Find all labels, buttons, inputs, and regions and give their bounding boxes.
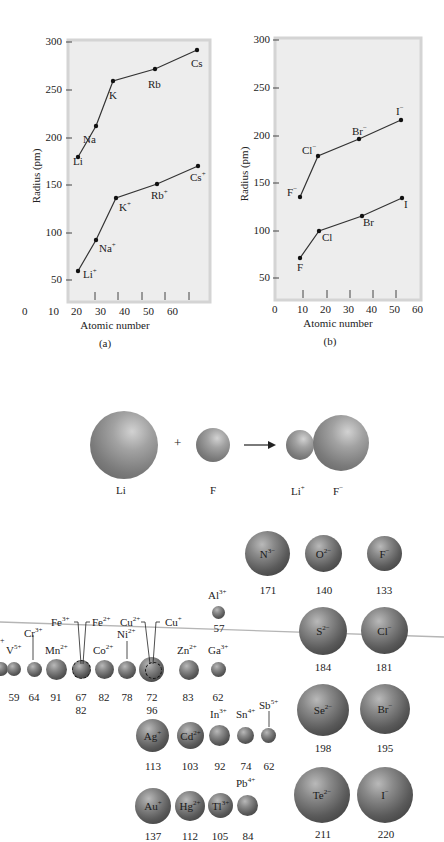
product1-label: Li+ — [291, 484, 305, 497]
x-tick: 0 — [22, 305, 28, 317]
ion-radius-alt: 82 — [66, 704, 96, 716]
ion-radius: 195 — [370, 742, 400, 754]
ion-sphere-pb — [237, 795, 258, 816]
y-tick: 150 — [46, 178, 63, 190]
ion-label-al3: Al3+ — [208, 588, 226, 601]
ion-label-ga3: Ga3+ — [208, 643, 228, 656]
plus-sign: + — [174, 435, 181, 451]
ion-sphere-ga3 — [211, 662, 226, 677]
point-label: F — [297, 261, 303, 273]
ion-sphere-ag: Ag+ — [136, 719, 169, 752]
ion-label-fe2: Fe2+ — [92, 615, 110, 628]
ion-sphere-o2: O2− — [305, 535, 342, 572]
x-tick: 50 — [143, 305, 154, 317]
point-label: Li — [73, 155, 83, 167]
ion-label-zn2: Zn2+ — [177, 643, 197, 656]
ion-sphere-hg: Hg2+ — [175, 791, 205, 821]
y-tick: 200 — [254, 129, 271, 141]
ion-radius: 137 — [138, 830, 168, 842]
point-label: Br− — [352, 124, 367, 137]
ion-radius: 84 — [233, 830, 263, 842]
ion-sphere-s2: S2− — [299, 607, 347, 655]
x-tick: 0 — [272, 303, 278, 315]
sb-connector — [268, 711, 270, 727]
li-cation-sphere — [286, 430, 314, 460]
y-tick: 250 — [46, 83, 63, 95]
point-label: I — [404, 198, 408, 210]
x-tick: 40 — [119, 305, 130, 317]
x-tick-labels-b: 0 10 20 30 40 50 60 — [222, 303, 444, 317]
x-tick: 60 — [412, 303, 423, 315]
ion-label-cr3: Cr3+ — [24, 626, 42, 639]
ion-sphere-in — [209, 725, 230, 746]
ion-label-mn2: Mn2+ — [45, 643, 68, 656]
ion-label-fe3: Fe3+ — [51, 615, 69, 628]
point-label: Cs — [191, 57, 203, 69]
point-label: K+ — [119, 200, 131, 213]
ion-radius: 133 — [369, 584, 399, 596]
x-tick: 20 — [320, 303, 331, 315]
point-label: Rb+ — [151, 188, 168, 201]
ion-label-sb5: Sb5+ — [259, 698, 278, 711]
ion-label-co2: Co2+ — [93, 643, 113, 656]
ion-sphere-cd: Cd2+ — [177, 722, 204, 749]
ion-label-sn4: Sn4+ — [236, 707, 255, 720]
ion-sphere-f: F− — [367, 536, 402, 571]
x-axis-label-b: Atomic number — [283, 317, 393, 329]
x-tick: 50 — [389, 303, 400, 315]
ion-radius: 112 — [175, 830, 205, 842]
x-tick: 20 — [71, 305, 82, 317]
point-label: I− — [396, 104, 404, 117]
x-tick: 30 — [95, 305, 106, 317]
ion-radius: 171 — [253, 584, 283, 596]
ion-label-cu1: Cu+ — [165, 615, 182, 628]
y-axis-label-b: Radius (pm) — [238, 134, 250, 214]
ion-sphere-al3 — [212, 606, 225, 619]
plot-area-a — [68, 40, 210, 302]
point-label: Br — [363, 216, 374, 228]
ion-sphere-br: Br− — [360, 684, 410, 734]
x-tick: 10 — [48, 305, 59, 317]
y-tick: 50 — [51, 273, 62, 285]
arrow-icon — [244, 440, 276, 450]
y-axis-label-a: Radius (pm) — [30, 136, 42, 216]
x-tick: 40 — [366, 303, 377, 315]
ion-radius: 220 — [371, 828, 401, 840]
ion-sphere-sn — [237, 727, 254, 744]
point-label: Na+ — [99, 241, 116, 254]
caption-b: (b) — [315, 335, 345, 347]
f-anion-sphere — [313, 415, 369, 471]
y-tick: 200 — [46, 131, 63, 143]
ion-sphere-zn2 — [179, 660, 199, 680]
point-label: K — [109, 89, 117, 101]
point-label: Cl− — [302, 143, 316, 156]
ion-sphere-au: Au+ — [135, 788, 171, 824]
ion-radius: 113 — [138, 760, 168, 772]
product2-label: F− — [333, 484, 343, 497]
ion-radius: 211 — [308, 828, 338, 840]
y-tick: 300 — [46, 35, 63, 47]
ion-sphere-se2: Se2− — [297, 684, 349, 736]
ion-radius-alt: 96 — [137, 704, 167, 716]
reactant2-label: F — [210, 484, 216, 496]
ion-label-v5: V5+ — [6, 643, 21, 656]
y-tick: 250 — [254, 81, 271, 93]
ion-radius: 105 — [205, 830, 235, 842]
point-label: Na — [83, 133, 96, 145]
x-tick: 30 — [343, 303, 354, 315]
caption-a: (a) — [90, 337, 120, 349]
ion-radius: 198 — [308, 742, 338, 754]
ion-sphere-n3: N3− — [245, 531, 290, 576]
ion-sphere-cl: Cl− — [361, 607, 408, 654]
ion-radius: 72 — [137, 691, 167, 703]
y-tick: 100 — [46, 226, 63, 238]
y-tick: 100 — [254, 224, 271, 236]
ion-radius: 62 — [203, 691, 233, 703]
ion-radius: 184 — [308, 661, 338, 673]
y-tick: 300 — [254, 33, 271, 45]
ion-radius: 83 — [173, 691, 203, 703]
point-label: Cs+ — [190, 170, 206, 183]
point-label: Rb — [148, 78, 161, 90]
y-tick: 50 — [259, 271, 270, 283]
point-label: Cl — [322, 231, 332, 243]
